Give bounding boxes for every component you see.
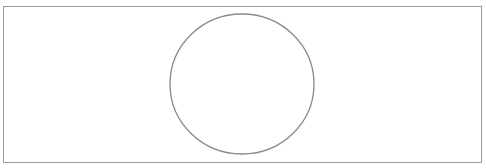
diagram-canvas: [0, 0, 486, 168]
diagram-frame: [4, 7, 482, 163]
diagram-svg: [0, 0, 486, 168]
